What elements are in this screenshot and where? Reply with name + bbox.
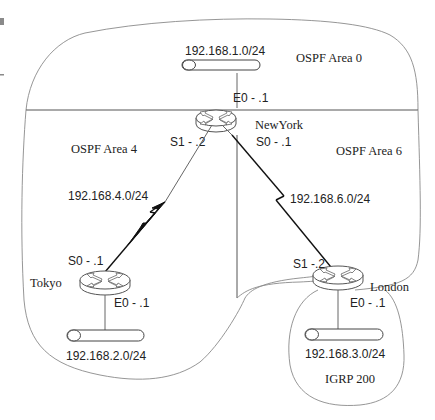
area-label-igrp-200: IGRP 200 bbox=[325, 372, 375, 386]
interface-label-london-e0: E0 - .1 bbox=[350, 296, 386, 310]
router-icon-newyork[interactable] bbox=[196, 110, 236, 132]
interface-label-newyork-e0: E0 - .1 bbox=[233, 91, 269, 105]
network-label-192-168-6-0: 192.168.6.0/24 bbox=[290, 192, 370, 206]
interface-label-tokyo-e0: E0 - .1 bbox=[114, 296, 150, 310]
interface-label-tokyo-s0: S0 - .1 bbox=[68, 254, 104, 268]
router-name-london: London bbox=[370, 280, 410, 294]
lan-segment-london bbox=[305, 329, 383, 340]
router-icon-tokyo[interactable] bbox=[80, 271, 130, 295]
page-edge-mark bbox=[0, 18, 4, 25]
interface-label-newyork-s1: S1 - .2 bbox=[170, 135, 206, 149]
network-label-192-168-1-0: 192.168.1.0/24 bbox=[185, 44, 265, 58]
network-label-192-168-4-0: 192.168.4.0/24 bbox=[68, 189, 148, 203]
lan-segment-newyork bbox=[182, 60, 260, 70]
page-edge-mark bbox=[0, 74, 4, 76]
router-name-tokyo: Tokyo bbox=[30, 276, 62, 290]
router-name-newyork: NewYork bbox=[255, 118, 304, 132]
area-label-ospf-4: OSPF Area 4 bbox=[71, 142, 138, 156]
interface-label-newyork-s0: S0 - .1 bbox=[256, 135, 292, 149]
area-label-ospf-0: OSPF Area 0 bbox=[296, 51, 362, 65]
lan-segment-tokyo bbox=[67, 330, 144, 341]
interface-label-london-s1: S1 -.2 bbox=[293, 257, 325, 271]
network-label-192-168-2-0: 192.168.2.0/24 bbox=[66, 349, 146, 363]
area-label-ospf-6: OSPF Area 6 bbox=[336, 144, 402, 158]
network-label-192-168-3-0: 192.168.3.0/24 bbox=[305, 347, 385, 361]
network-topology-diagram: 192.168.1.0/24 NewYork E0 - .1 S1 - .2 S… bbox=[0, 0, 435, 420]
